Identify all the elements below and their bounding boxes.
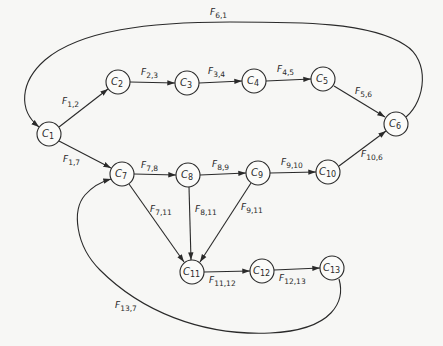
edge-label-f-9-10: F9,10 [281, 157, 303, 170]
edge-label-f-8-9: F8,9 [212, 159, 229, 172]
edge-c3-c4 [199, 81, 242, 83]
node-c11: C11 [180, 260, 204, 284]
edge-label-f-4-5: F4,5 [277, 64, 294, 77]
edge-label-f-7-8: F7,8 [141, 160, 158, 173]
flow-graph-diagram: F1,2 F2,3 F3,4 F4,5 F5,6 F6,1 F1,7 F7,8 … [0, 0, 443, 346]
edge-c12-c13 [274, 268, 320, 270]
node-c4: C4 [242, 69, 266, 93]
edge-c9-c10 [270, 172, 316, 173]
node-c8: C8 [176, 163, 200, 187]
edge-c9-c11 [200, 183, 251, 262]
node-c10: C10 [316, 160, 340, 184]
edge-c8-c11 [189, 187, 191, 260]
edge-c7-c11 [129, 184, 184, 262]
edge-c8-c9 [200, 173, 246, 175]
node-c1: C1 [37, 122, 61, 146]
edge-label-f-12-13: F12,13 [279, 273, 306, 286]
node-c6: C6 [384, 112, 408, 136]
node-c9: C9 [246, 161, 270, 185]
edge-label-f-13-7: F13,7 [115, 300, 137, 313]
edge-c13-c7 [77, 179, 340, 333]
node-c3: C3 [175, 71, 199, 95]
edge-c2-c3 [130, 82, 175, 83]
node-c12: C12 [250, 259, 274, 283]
edge-label-f-10-6: F10,6 [361, 149, 383, 162]
node-c13: C13 [320, 256, 344, 280]
node-c5: C5 [311, 67, 335, 91]
edge-label-f-6-1: F6,1 [210, 7, 227, 20]
edge-label-f-1-2: F1,2 [62, 96, 79, 109]
edge-label-f-3-4: F3,4 [208, 66, 225, 79]
edge-label-f-2-3: F2,3 [141, 67, 158, 80]
edge-c11-c12 [204, 271, 250, 272]
edge-label-f-9-11: F9,11 [241, 202, 263, 215]
edge-label-f-7-11: F7,11 [150, 204, 172, 217]
edge-label-f-1-7: F1,7 [63, 154, 80, 167]
edge-c7-c8 [134, 174, 176, 175]
node-c2: C2 [106, 70, 130, 94]
edge-label-f-8-11: F8,11 [195, 204, 217, 217]
edge-c4-c5 [266, 79, 311, 81]
edge-label-f-11-12: F11,12 [209, 275, 236, 288]
edge-label-f-5-6: F5,6 [355, 86, 372, 99]
node-c7: C7 [110, 162, 134, 186]
